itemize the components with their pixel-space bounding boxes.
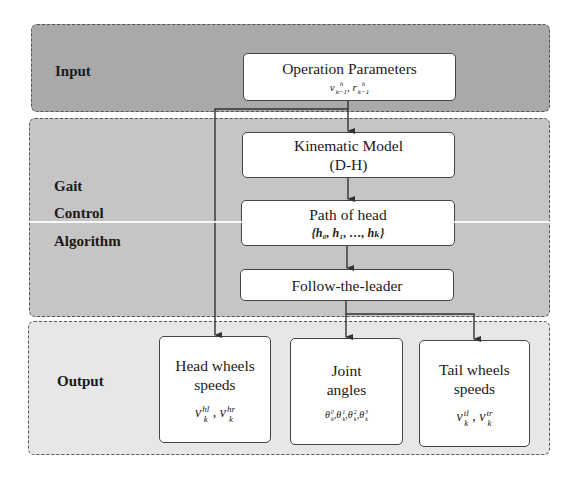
head-wheels-title-line-2: speeds <box>194 375 235 394</box>
scan-artifact-line <box>0 221 572 223</box>
head-wheels-speeds-box: Head wheels speeds vhlk , vhrk <box>159 336 271 443</box>
math-sub: k−1 <box>336 88 347 96</box>
math-indices: hk−1 <box>336 80 347 96</box>
gait-label-line-2: Control <box>54 200 104 227</box>
tail-wheels-title-line-1: Tail wheels <box>439 360 510 379</box>
math-sup: 3 <box>365 409 368 416</box>
path-of-head-math: {h₀, h₁, …, hₖ} <box>311 226 384 241</box>
math-indices: hrk <box>227 404 235 424</box>
tail-wheels-speeds-box: Tail wheels speeds vtlk , vtrk <box>419 340 530 447</box>
joint-angles-math: θ0k,θ1k,θ2k,θ3k <box>325 409 368 423</box>
follow-the-leader-title: Follow-the-leader <box>291 276 402 295</box>
math-indices: 3k <box>365 409 368 423</box>
math-var: r <box>353 80 357 92</box>
math-indices: hk−1 <box>358 80 369 96</box>
operation-parameters-box: Operation Parameters vhk−1, rhk−1 <box>243 53 456 101</box>
joint-angles-box: Joint angles θ0k,θ1k,θ2k,θ3k <box>290 338 403 445</box>
math-sup: h <box>336 80 347 88</box>
math-sup: hr <box>227 404 235 414</box>
path-of-head-box: Path of head {h₀, h₁, …, hₖ} <box>241 200 455 246</box>
input-label: Input <box>55 58 91 85</box>
joint-angles-title-line-1: Joint <box>331 361 361 380</box>
math-sup: tr <box>486 408 492 418</box>
math-sep: , <box>209 405 220 420</box>
math-var: v <box>195 405 201 420</box>
head-wheels-title-line-1: Head wheels <box>175 356 255 375</box>
math-sub: k <box>486 418 492 428</box>
output-label: Output <box>57 368 104 395</box>
math-var: θ <box>336 409 341 420</box>
math-sub: k <box>227 414 235 424</box>
math-var: v <box>479 409 485 424</box>
math-var: v <box>330 80 335 92</box>
gait-label-line-1: Gait <box>54 173 82 200</box>
joint-angles-title-line-2: angles <box>327 380 367 399</box>
operation-parameters-title: Operation Parameters <box>282 59 417 78</box>
gait-label-line-3: Algorithm <box>54 228 121 255</box>
kinematic-model-subtitle: (D-H) <box>330 155 368 174</box>
tail-wheels-title-line-2: speeds <box>454 379 495 398</box>
kinematic-model-title: Kinematic Model <box>294 136 403 155</box>
head-wheels-math: vhlk , vhrk <box>195 404 235 424</box>
math-indices: trk <box>486 408 492 428</box>
math-var: v <box>457 409 463 424</box>
math-var: θ <box>359 409 364 420</box>
math-var: v <box>220 405 226 420</box>
kinematic-model-box: Kinematic Model (D-H) <box>242 132 455 178</box>
math-sub: k <box>365 416 368 423</box>
math-sub: k−1 <box>358 88 369 96</box>
math-var: θ <box>348 409 353 420</box>
math-sup: h <box>358 80 369 88</box>
follow-the-leader-box: Follow-the-leader <box>240 269 454 301</box>
math-sep: , <box>469 409 480 424</box>
operation-parameters-math: vhk−1, rhk−1 <box>330 80 369 96</box>
math-var: θ <box>325 409 330 420</box>
tail-wheels-math: vtlk , vtrk <box>457 408 493 428</box>
